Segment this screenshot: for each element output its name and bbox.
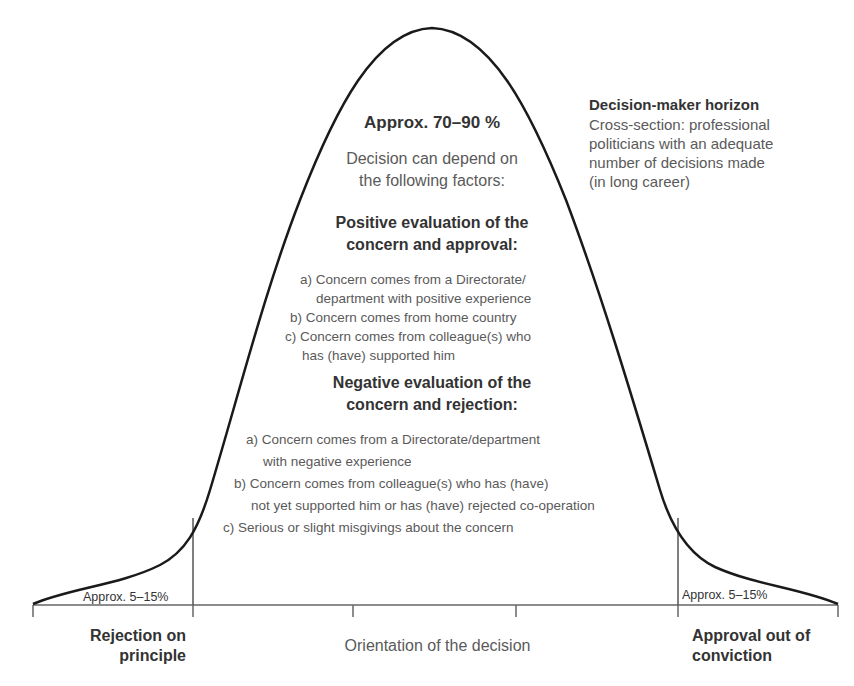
center-intro: Decision can depend on the following fac… <box>300 148 564 192</box>
negative-item-a-cont: with negative experience <box>263 452 412 471</box>
center-share-label: Approx. 70–90 % <box>300 113 564 133</box>
intro-line: the following factors: <box>300 170 564 192</box>
horizon-line: politicians with an adequate <box>589 134 773 153</box>
negative-item-b: b) Concern comes from colleague(s) who h… <box>234 474 548 493</box>
label-line: Approval out of <box>692 626 810 646</box>
horizon-description: Cross-section: professional politicians … <box>589 115 773 191</box>
positive-item-a: a) Concern comes from a Directorate/ <box>300 270 526 289</box>
left-tail-label: Rejection on principle <box>60 626 186 666</box>
negative-evaluation-title: Negative evaluation of the concern and r… <box>270 372 594 416</box>
horizon-title: Decision-maker horizon <box>589 96 759 113</box>
positive-item-b: b) Concern comes from home country <box>290 308 517 327</box>
label-line: Rejection on <box>60 626 186 646</box>
title-line: Positive evaluation of the <box>280 212 584 234</box>
title-line: concern and approval: <box>280 234 584 256</box>
positive-item-a-cont: department with positive experience <box>316 289 531 308</box>
right-tail-label: Approval out of conviction <box>692 626 810 666</box>
right-tail-share: Approx. 5–15% <box>682 588 767 602</box>
intro-line: Decision can depend on <box>300 148 564 170</box>
negative-item-a: a) Concern comes from a Directorate/depa… <box>246 430 540 449</box>
positive-item-c: c) Concern comes from colleague(s) who <box>285 327 531 346</box>
negative-item-c: c) Serious or slight misgivings about th… <box>223 518 513 537</box>
negative-item-b-cont: not yet supported him or has (have) reje… <box>251 496 595 515</box>
horizon-line: Cross-section: professional <box>589 115 773 134</box>
title-line: concern and rejection: <box>270 394 594 416</box>
label-line: conviction <box>692 646 810 666</box>
label-line: principle <box>60 646 186 666</box>
horizon-line: (in long career) <box>589 172 773 191</box>
x-axis-label: Orientation of the decision <box>300 636 575 656</box>
left-tail-share: Approx. 5–15% <box>83 590 168 604</box>
axis-ticks <box>33 605 838 617</box>
positive-item-c-cont: has (have) supported him <box>302 346 455 365</box>
title-line: Negative evaluation of the <box>270 372 594 394</box>
positive-evaluation-title: Positive evaluation of the concern and a… <box>280 212 584 256</box>
horizon-line: number of decisions made <box>589 153 773 172</box>
